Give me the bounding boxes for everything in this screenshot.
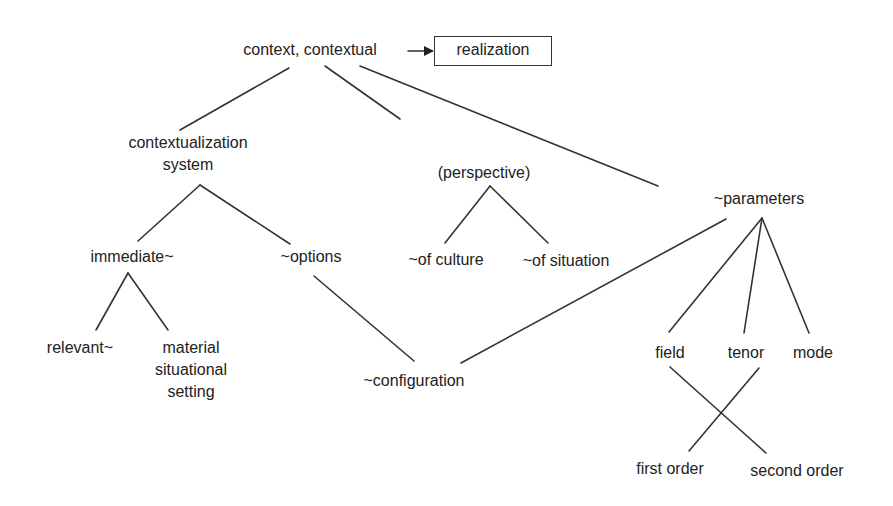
node-field: field [655,342,684,364]
edge-options-configuration [314,276,414,361]
node-relevant: relevant~ [47,337,113,359]
edge-field-second-order [670,367,766,453]
edge-immediate-material [128,273,168,330]
edge-parameters-configuration [461,219,726,363]
node-options: ~options [281,246,342,268]
node-contextualization-system: contextualization system [128,132,247,176]
edge-system-immediate [138,185,200,241]
node-first-order: first order [636,458,704,480]
node-mode: mode [793,342,833,364]
context-diagram: context, contextual realization contextu… [0,0,893,506]
node-parameters: ~parameters [714,188,804,210]
edge-perspective-culture [445,186,490,243]
edge-parameters-field [669,218,762,332]
edge-parameters-tenor [744,218,762,333]
node-tenor: tenor [728,342,764,364]
edge-tenor-first-order [689,368,759,451]
edge-parameters-mode [762,218,809,333]
node-context-contextual: context, contextual [243,39,376,61]
edge-root-perspective [325,66,400,119]
node-realization-box: realization [434,36,552,66]
node-configuration: ~configuration [364,370,465,392]
node-perspective: (perspective) [438,162,530,184]
node-of-situation: ~of situation [523,250,610,272]
edge-perspective-situation [490,186,548,243]
edge-root-contextualization [180,68,289,130]
node-material-situational-setting: material situational setting [155,337,227,403]
node-of-culture: ~of culture [408,249,483,271]
node-immediate: immediate~ [90,246,173,268]
node-second-order: second order [750,460,843,482]
edge-system-options [200,185,290,244]
edge-immediate-relevant [96,273,128,330]
